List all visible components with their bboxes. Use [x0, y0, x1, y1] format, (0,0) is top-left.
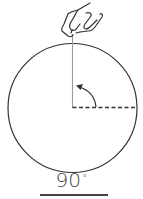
pointing-hand-icon — [62, 3, 103, 37]
angle-value: 90 — [56, 168, 81, 192]
degree-symbol: ° — [82, 172, 88, 185]
label-underline — [40, 194, 108, 196]
rotation-arrow-icon — [76, 84, 96, 107]
angle-label: 90° — [0, 168, 143, 192]
